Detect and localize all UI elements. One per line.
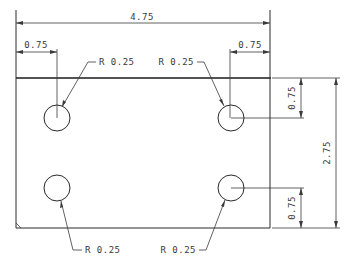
corner-mark (16, 223, 21, 228)
technical-drawing: 4.75 0.75 0.75 0.75 0.75 2. (0, 0, 351, 268)
holes (44, 105, 244, 201)
radius-label-top-right: R 0.25 (158, 57, 194, 67)
dim-hole-offset-bottom-label: 0.75 (287, 196, 297, 220)
dim-hole-offset-top-label: 0.75 (287, 86, 297, 110)
dim-right-side: 0.75 0.75 2.75 (231, 78, 340, 228)
leader-top-left: R 0.25 (62, 57, 135, 107)
leader-top-right: R 0.25 (158, 57, 224, 106)
radius-label-bottom-right: R 0.25 (160, 245, 196, 255)
dim-hole-offset-left-label: 0.75 (24, 40, 48, 50)
radius-label-bottom-left: R 0.25 (85, 245, 121, 255)
dim-overall-width: 4.75 (16, 12, 270, 25)
radius-label-top-left: R 0.25 (99, 57, 135, 67)
dim-overall-height-label: 2.75 (322, 141, 332, 165)
dim-hole-offset-right-label: 0.75 (238, 40, 262, 50)
dim-overall-width-label: 4.75 (130, 12, 154, 22)
hole-bottom-left (44, 175, 70, 201)
